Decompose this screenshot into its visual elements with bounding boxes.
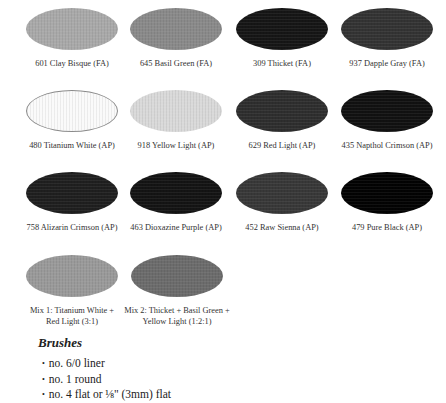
paint-swatch-oval bbox=[26, 8, 118, 50]
brush-item-label: no. 6/0 liner bbox=[49, 357, 105, 369]
brushes-section: Brushes •no. 6/0 liner •no. 1 round •no.… bbox=[38, 335, 171, 403]
swatch-label: 435 Napthol Crimson (AP) bbox=[335, 140, 439, 151]
swatch-label: 463 Dioxazine Purple (AP) bbox=[124, 222, 228, 233]
swatch-raw-sienna: 452 Raw Sienna (AP) bbox=[230, 172, 334, 233]
swatch-label: 758 Alizarin Crimson (AP) bbox=[20, 222, 124, 233]
swatch-label: Mix 1: Titanium White + Red Light (3:1) bbox=[20, 305, 124, 327]
paint-swatch-oval bbox=[341, 8, 433, 50]
brush-item-label: no. 4 flat or ⅛" (3mm) flat bbox=[49, 388, 171, 400]
paint-swatch-oval bbox=[236, 90, 328, 132]
paint-swatch-oval bbox=[236, 8, 328, 50]
swatch-label: 601 Clay Bisque (FA) bbox=[20, 58, 124, 69]
swatch-dioxazine-purple: 463 Dioxazine Purple (AP) bbox=[124, 172, 228, 233]
swatch-label: 480 Titanium White (AP) bbox=[20, 140, 124, 151]
paint-swatch-oval bbox=[131, 255, 223, 297]
swatch-label: 309 Thicket (FA) bbox=[230, 58, 334, 69]
brushes-heading: Brushes bbox=[38, 335, 171, 351]
paint-swatch-oval bbox=[130, 8, 222, 50]
paint-swatch-oval bbox=[26, 172, 118, 214]
paint-swatch-oval bbox=[130, 172, 222, 214]
swatch-mix-2: Mix 2: Thicket + Basil Green + Yellow Li… bbox=[124, 255, 230, 327]
paint-swatch-oval bbox=[130, 90, 222, 132]
swatch-napthol-crimson: 435 Napthol Crimson (AP) bbox=[335, 90, 439, 151]
swatch-dapple-gray: 937 Dapple Gray (FA) bbox=[335, 8, 439, 69]
brush-item-label: no. 1 round bbox=[49, 373, 102, 385]
swatch-alizarin-crimson: 758 Alizarin Crimson (AP) bbox=[20, 172, 124, 233]
swatch-clay-bisque: 601 Clay Bisque (FA) bbox=[20, 8, 124, 69]
swatch-titanium-white: 480 Titanium White (AP) bbox=[20, 90, 124, 151]
swatch-label: 629 Red Light (AP) bbox=[230, 140, 334, 151]
paint-swatch-oval bbox=[26, 90, 118, 132]
list-item: •no. 4 flat or ⅛" (3mm) flat bbox=[42, 387, 171, 403]
swatch-label: 918 Yellow Light (AP) bbox=[124, 140, 228, 151]
bullet-icon: • bbox=[42, 390, 45, 399]
brushes-list: •no. 6/0 liner •no. 1 round •no. 4 flat … bbox=[42, 356, 171, 403]
swatch-label: 452 Raw Sienna (AP) bbox=[230, 222, 334, 233]
list-item: •no. 1 round bbox=[42, 372, 171, 388]
swatch-label: Mix 2: Thicket + Basil Green + Yellow Li… bbox=[124, 305, 230, 327]
paint-swatch-oval bbox=[341, 90, 433, 132]
swatch-pure-black: 479 Pure Black (AP) bbox=[335, 172, 439, 233]
paint-swatch-oval bbox=[236, 172, 328, 214]
list-item: •no. 6/0 liner bbox=[42, 356, 171, 372]
swatch-thicket: 309 Thicket (FA) bbox=[230, 8, 334, 69]
bullet-icon: • bbox=[42, 375, 45, 384]
bullet-icon: • bbox=[42, 359, 45, 368]
swatch-mix-1: Mix 1: Titanium White + Red Light (3:1) bbox=[20, 255, 124, 327]
swatch-yellow-light: 918 Yellow Light (AP) bbox=[124, 90, 228, 151]
swatch-label: 645 Basil Green (FA) bbox=[124, 58, 228, 69]
swatch-label: 479 Pure Black (AP) bbox=[335, 222, 439, 233]
paint-swatch-oval bbox=[26, 255, 118, 297]
swatch-basil-green: 645 Basil Green (FA) bbox=[124, 8, 228, 69]
swatch-label: 937 Dapple Gray (FA) bbox=[335, 58, 439, 69]
paint-swatch-oval bbox=[341, 172, 433, 214]
swatch-red-light: 629 Red Light (AP) bbox=[230, 90, 334, 151]
